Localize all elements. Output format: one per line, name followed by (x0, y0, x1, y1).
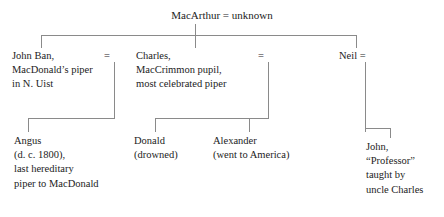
node-charles: Charles, MacCrimmon pupil, most celebrat… (136, 49, 226, 92)
connector-neil-descender (365, 62, 366, 132)
node-angus-line-2: (d. c. 1800), (14, 148, 99, 162)
node-john-professor-line-3: taught by (366, 168, 423, 182)
node-angus-line-4: piper to MacDonald (14, 177, 99, 191)
node-charles-line-2: MacCrimmon pupil, (136, 63, 226, 77)
node-john-ban-line-2: MacDonald’s piper (12, 63, 93, 77)
node-john-professor-line-4: uncle Charles (366, 183, 423, 197)
connector-root-stem (195, 24, 196, 35)
node-charles-line-1: Charles, (136, 49, 226, 63)
connector-john-ban-descender (114, 62, 115, 118)
marriage-symbol-charles: = (258, 49, 264, 63)
connector-gen2-bar (41, 35, 356, 36)
node-angus-line-3: last hereditary (14, 162, 99, 176)
node-donald-line-1: Donald (134, 134, 178, 148)
connector-alexander-drop (249, 118, 250, 132)
node-john-professor: John, “Professor” taught by uncle Charle… (366, 140, 423, 197)
node-john-ban-line-1: John Ban, (12, 49, 93, 63)
connector-donald-drop (155, 118, 156, 132)
connector-charles-descender (268, 62, 269, 118)
node-alexander-line-1: Alexander (213, 134, 289, 148)
node-neil-line-1: Neil = (339, 49, 366, 63)
marriage-symbol-john-ban: = (104, 49, 110, 63)
connector-gen2-drop-neil (356, 35, 357, 48)
node-neil: Neil = (339, 49, 366, 63)
connector-gen2-drop-john (41, 35, 42, 48)
node-alexander: Alexander (went to America) (213, 134, 289, 162)
node-john-ban-line-3: in N. Uist (12, 77, 93, 91)
node-john-ban: John Ban, MacDonald’s piper in N. Uist (12, 49, 93, 92)
node-charles-line-3: most celebrated piper (136, 77, 226, 91)
connector-gen2-drop-charles (195, 35, 196, 48)
node-donald: Donald (drowned) (134, 134, 178, 162)
family-tree-diagram: MacArthur = unknown John Ban, MacDonald’… (0, 0, 444, 217)
node-macarthur-root: MacArthur = unknown (0, 8, 444, 22)
connector-charles-children-bar (155, 118, 269, 119)
connector-john-professor-bar (365, 128, 391, 129)
connector-angus-bar (28, 118, 115, 119)
connector-john-professor-drop (390, 128, 391, 138)
node-angus: Angus (d. c. 1800), last hereditary pipe… (14, 134, 99, 191)
connector-angus-drop (28, 118, 29, 132)
node-angus-line-1: Angus (14, 134, 99, 148)
node-john-professor-line-2: “Professor” (366, 154, 423, 168)
node-alexander-line-2: (went to America) (213, 148, 289, 162)
node-john-professor-line-1: John, (366, 140, 423, 154)
node-donald-line-2: (drowned) (134, 148, 178, 162)
